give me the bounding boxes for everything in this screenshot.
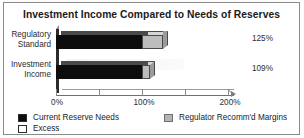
bar-segment-current-reserve-needs [56,35,142,49]
legend-label: Excess [33,124,59,133]
plot-area: 0% 100% 200% Regulatory Standard [56,29,241,95]
chart-screenshot: Investment Income Compared to Needs of R… [0,0,304,138]
bar-face-front [142,65,150,79]
chart-frame: Investment Income Compared to Needs of R… [3,2,300,135]
x-tick-label-0: 0% [51,98,63,107]
x-axis-floor-front [56,95,234,96]
legend-swatch-white [18,125,27,133]
legend-item-current-reserve-needs: Current Reserve Needs [18,113,119,122]
category-label-regulatory-standard: Regulatory Standard [11,30,51,49]
y-axis-wall-top [56,25,59,29]
legend-item-regulator-margins: Regulator Recomm'd Margins [164,113,287,122]
x-tick-label-200: 200% [220,98,241,107]
bar-face-front [56,35,142,49]
bar-face-right [150,61,155,79]
chart-title: Investment Income Compared to Needs of R… [4,9,299,20]
x-axis-arrow-icon [231,91,236,97]
x-tick-200 [228,89,229,96]
value-label-investment-income: 109% [252,64,273,73]
legend-label: Current Reserve Needs [33,113,119,122]
chart-legend: Current Reserve Needs Excess Regulator R… [18,113,294,135]
x-tick-label-100: 100% [134,98,155,107]
bar-segment-regulator-margins [142,35,163,49]
bar-face-front [56,65,142,79]
category-label-investment-income: Investment Income [11,60,51,79]
bar-face-right [163,31,168,49]
x-tick-50 [99,89,100,96]
bar-segment-current-reserve-needs [56,65,142,79]
legend-label: Regulator Recomm'd Margins [179,113,287,122]
x-tick-150 [185,89,186,96]
legend-item-excess: Excess [18,124,59,133]
x-tick-0 [56,89,57,96]
legend-swatch-gray [164,114,173,122]
chart-inner: Investment Income Compared to Needs of R… [4,3,299,134]
x-axis-floor [56,89,234,96]
bar-face-top [61,31,147,35]
bar-segment-regulator-margins [142,65,150,79]
x-tick-100 [142,89,143,96]
legend-swatch-black [18,114,27,122]
value-label-regulatory-standard: 125% [252,34,273,43]
bar-face-front [142,35,163,49]
bar-face-top [61,61,147,65]
x-axis-floor-back [62,89,234,90]
